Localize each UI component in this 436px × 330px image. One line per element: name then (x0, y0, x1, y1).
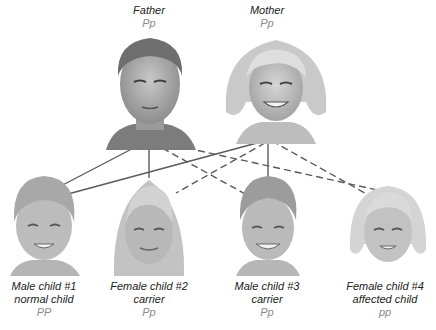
child2-genotype: Pp (89, 306, 209, 319)
child3-label: Male child #3 carrier Pp (207, 280, 327, 319)
child2-portrait (110, 176, 188, 276)
child2-name: Female child #2 (89, 280, 209, 293)
child3-status: carrier (207, 293, 327, 306)
child4-status: affected child (325, 293, 436, 306)
mother-label: Mother Pp (207, 4, 327, 30)
child3-genotype: Pp (207, 306, 327, 319)
child2-label: Female child #2 carrier Pp (89, 280, 209, 319)
mother-genotype: Pp (207, 17, 327, 30)
child4-portrait (348, 180, 428, 276)
child4-genotype: pp (325, 306, 436, 319)
child4-name: Female child #4 (325, 280, 436, 293)
father-label: Father Pp (89, 4, 209, 30)
child4-label: Female child #4 affected child pp (325, 280, 436, 319)
father-genotype: Pp (89, 17, 209, 30)
child3-name: Male child #3 (207, 280, 327, 293)
child2-status: carrier (89, 293, 209, 306)
child1-portrait (4, 172, 84, 276)
child3-portrait (230, 174, 306, 276)
father-portrait (98, 32, 202, 150)
mother-portrait (222, 32, 330, 144)
mother-name: Mother (207, 4, 327, 17)
father-name: Father (89, 4, 209, 17)
